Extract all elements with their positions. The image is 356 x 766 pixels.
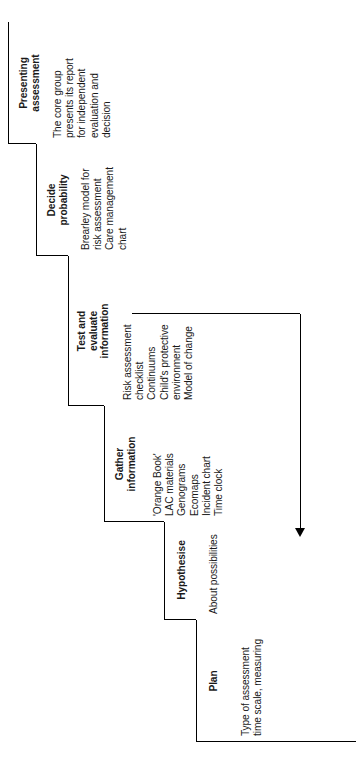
stair-tread-plan	[196, 620, 197, 742]
stair-tread-decide-probability	[36, 144, 37, 256]
stair-tread-test-and-evaluate-information	[68, 256, 69, 406]
step-heading-hypothesise: Hypothesise	[176, 522, 188, 618]
stair-riser-decide-probability	[36, 255, 68, 256]
stair-tread-gather-information	[104, 406, 105, 522]
diagram-canvas: Plan Type of assessment time scale, meas…	[0, 0, 356, 766]
step-body-plan: Type of assessment time scale, measuring	[240, 586, 264, 736]
step-body-test-and-evaluate-information: Risk assessment checklist Continuums Chi…	[122, 240, 195, 400]
step-heading-presenting-assessment: Presenting assessment	[18, 24, 41, 142]
stair-riser-gather-information	[104, 521, 164, 522]
stair-riser-hypothesise	[164, 619, 196, 620]
stair-riser-presenting-assessment	[8, 143, 36, 144]
feedback-arrow-line	[300, 314, 301, 528]
step-heading-plan: Plan	[208, 620, 220, 742]
stair-tread-hypothesise	[164, 522, 165, 620]
step-body-presenting-assessment: The core group presents its report for i…	[52, 0, 113, 138]
step-heading-gather-information: Gather information	[114, 408, 137, 520]
stair-riser-test-and-evaluate-information	[68, 405, 104, 406]
step-heading-decide-probability: Decide probability	[46, 146, 69, 254]
step-heading-test-and-evaluate-information: Test and evaluate information	[76, 258, 111, 404]
feedback-arrow-head	[295, 528, 305, 537]
stair-riser-plan	[196, 741, 356, 742]
stair-tread-presenting-assessment	[8, 22, 9, 144]
diagram-page: Plan Type of assessment time scale, meas…	[0, 0, 356, 766]
